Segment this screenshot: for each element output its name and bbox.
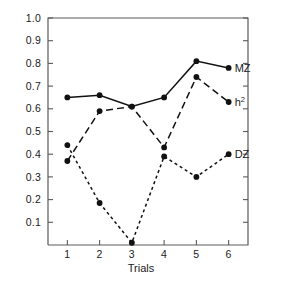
y-tick-label: 0.7 xyxy=(26,80,41,92)
y-tick-label: 0.5 xyxy=(26,125,41,137)
data-point-dz-1 xyxy=(64,142,70,148)
data-point-mz-1 xyxy=(64,95,70,101)
series-label-dz: DZ xyxy=(235,148,250,160)
chart-figure: 0.10.20.30.40.50.60.70.80.91.0 123456 MZ… xyxy=(0,0,283,286)
x-tick-label: 4 xyxy=(161,248,167,260)
y-tick-label: 0.4 xyxy=(26,148,41,160)
data-point-h2-5 xyxy=(193,74,199,80)
series-points-group xyxy=(64,58,231,245)
y-tick-label: 0.2 xyxy=(26,193,41,205)
axis-frame-path xyxy=(48,18,248,245)
x-axis-title: Trials xyxy=(128,262,155,274)
x-tick-label: 1 xyxy=(64,248,70,260)
chart-canvas: 0.10.20.30.40.50.60.70.80.91.0 123456 MZ… xyxy=(0,0,283,286)
data-point-dz-3 xyxy=(129,240,135,246)
y-tick-label: 0.8 xyxy=(26,57,41,69)
y-tick-label: 0.6 xyxy=(26,102,41,114)
data-point-h2-2 xyxy=(97,108,103,114)
right-axis-ticks xyxy=(243,18,248,222)
data-point-dz-2 xyxy=(97,200,103,206)
y-tick-label: 0.1 xyxy=(26,216,41,228)
x-tick-label: 6 xyxy=(226,248,232,260)
data-point-h2-1 xyxy=(64,158,70,164)
y-axis-ticks: 0.10.20.30.40.50.60.70.80.91.0 xyxy=(26,12,53,228)
data-point-h2-3 xyxy=(129,104,135,110)
x-tick-label: 3 xyxy=(129,248,135,260)
data-point-mz-5 xyxy=(193,58,199,64)
x-axis-ticks: 123456 xyxy=(64,240,231,260)
y-tick-label: 0.9 xyxy=(26,34,41,46)
series-label-mz: MZ xyxy=(235,62,251,74)
y-tick-label: 1.0 xyxy=(26,12,41,24)
plot-frame xyxy=(48,18,248,245)
series-line-dz xyxy=(67,145,228,243)
series-line-h2 xyxy=(67,77,228,161)
y-tick-label: 0.3 xyxy=(26,171,41,183)
series-lines-group xyxy=(67,61,228,243)
data-point-mz-4 xyxy=(161,95,167,101)
data-point-mz-6 xyxy=(226,65,232,71)
data-point-dz-6 xyxy=(226,151,232,157)
data-point-h2-6 xyxy=(226,99,232,105)
x-tick-label: 5 xyxy=(193,248,199,260)
x-tick-label: 2 xyxy=(97,248,103,260)
data-point-mz-2 xyxy=(97,92,103,98)
data-point-dz-5 xyxy=(193,174,199,180)
data-point-h2-4 xyxy=(161,144,167,150)
data-point-dz-4 xyxy=(161,154,167,160)
series-label-h2: h2 xyxy=(235,95,245,108)
